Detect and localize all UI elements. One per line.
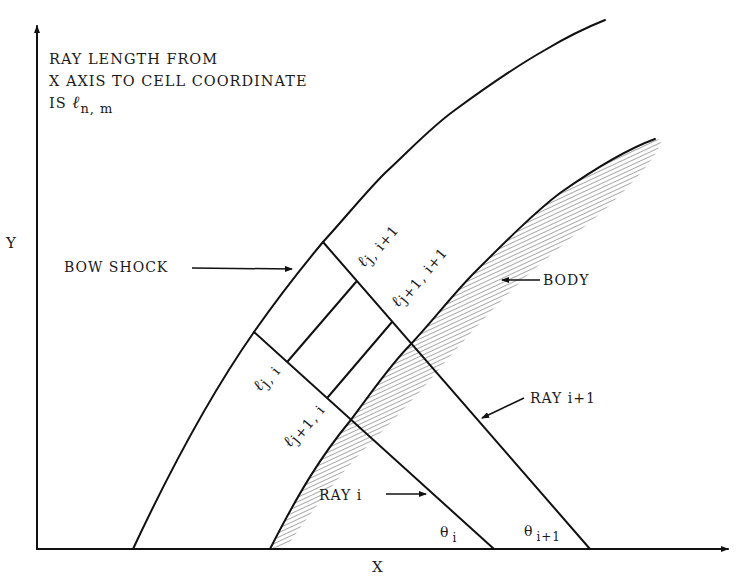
ray-i1-callout: RAY i+1: [482, 390, 596, 418]
label-l-j-i: ℓj, i: [249, 360, 284, 396]
x-axis-label: X: [372, 558, 384, 576]
bow-shock-curve: [133, 20, 605, 549]
cell-line-j: [288, 282, 356, 361]
ray-i1-arrow: [482, 398, 524, 418]
body-label: BODY: [543, 272, 590, 288]
ray-i-callout: RAY i: [319, 487, 426, 503]
label-l-j1-i: ℓj+1, i: [279, 398, 329, 451]
theta-i1-label: θi+1: [524, 523, 561, 544]
ray-i-label: RAY i: [319, 487, 362, 503]
bow-shock-label: BOW SHOCK: [64, 259, 168, 275]
axes: Y X: [5, 26, 728, 576]
bow-shock-callout: BOW SHOCK: [64, 259, 292, 275]
label-l-j-i1: ℓj, i+1: [353, 218, 403, 271]
label-l-j1-i1: ℓj+1, i+1: [387, 241, 451, 312]
y-axis-label: Y: [5, 234, 17, 252]
note-line-3: IS ℓn, m: [49, 92, 113, 116]
note-line-1: RAY LENGTH FROM: [49, 51, 218, 67]
ray-cell-diagram: Y X RAY LENGTH FROM X AXIS TO CELL COORD…: [0, 0, 749, 582]
note-line-2: X AXIS TO CELL COORDINATE: [49, 73, 307, 89]
bow-shock-arrow: [192, 268, 292, 269]
ray-i1-label: RAY i+1: [530, 390, 596, 406]
theta-i-label: θi: [440, 524, 457, 545]
note-block: RAY LENGTH FROM X AXIS TO CELL COORDINAT…: [49, 51, 307, 116]
diagram-svg: Y X RAY LENGTH FROM X AXIS TO CELL COORD…: [0, 0, 749, 582]
